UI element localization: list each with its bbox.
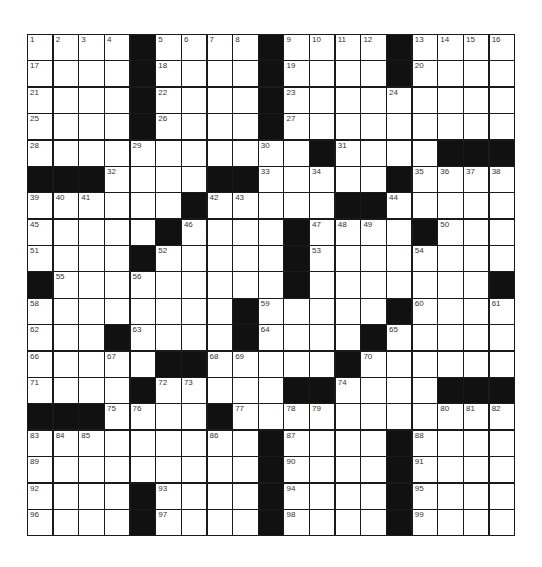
grid-cell[interactable]: 95 xyxy=(413,484,437,509)
grid-cell[interactable] xyxy=(310,484,334,509)
grid-cell[interactable] xyxy=(310,325,334,350)
grid-cell[interactable] xyxy=(54,457,78,482)
grid-cell[interactable]: 13 xyxy=(413,35,437,60)
grid-cell[interactable]: 16 xyxy=(490,35,514,60)
grid-cell[interactable] xyxy=(361,88,385,113)
grid-cell[interactable]: 91 xyxy=(413,457,437,482)
grid-cell[interactable] xyxy=(490,457,514,482)
grid-cell[interactable]: 63 xyxy=(131,325,155,350)
grid-cell[interactable]: 72 xyxy=(156,378,180,403)
grid-cell[interactable] xyxy=(182,325,206,350)
grid-cell[interactable]: 6 xyxy=(182,35,206,60)
grid-cell[interactable]: 76 xyxy=(131,404,155,429)
grid-cell[interactable] xyxy=(413,88,437,113)
grid-cell[interactable]: 85 xyxy=(79,431,103,456)
grid-cell[interactable] xyxy=(259,220,283,245)
grid-cell[interactable] xyxy=(79,325,103,350)
grid-cell[interactable] xyxy=(413,325,437,350)
grid-cell[interactable]: 62 xyxy=(28,325,52,350)
grid-cell[interactable]: 83 xyxy=(28,431,52,456)
grid-cell[interactable]: 75 xyxy=(105,404,129,429)
grid-cell[interactable] xyxy=(79,484,103,509)
grid-cell[interactable] xyxy=(284,352,308,377)
grid-cell[interactable] xyxy=(361,510,385,535)
grid-cell[interactable]: 93 xyxy=(156,484,180,509)
grid-cell[interactable]: 92 xyxy=(28,484,52,509)
grid-cell[interactable] xyxy=(54,114,78,139)
grid-cell[interactable]: 44 xyxy=(387,193,411,218)
grid-cell[interactable] xyxy=(182,457,206,482)
grid-cell[interactable] xyxy=(208,61,232,86)
grid-cell[interactable] xyxy=(54,510,78,535)
grid-cell[interactable] xyxy=(413,404,437,429)
grid-cell[interactable] xyxy=(182,510,206,535)
grid-cell[interactable] xyxy=(336,246,360,271)
grid-cell[interactable] xyxy=(336,404,360,429)
grid-cell[interactable] xyxy=(259,404,283,429)
grid-cell[interactable]: 49 xyxy=(361,220,385,245)
grid-cell[interactable]: 98 xyxy=(284,510,308,535)
grid-cell[interactable] xyxy=(131,167,155,192)
grid-cell[interactable] xyxy=(464,352,488,377)
grid-cell[interactable] xyxy=(259,246,283,271)
grid-cell[interactable]: 78 xyxy=(284,404,308,429)
grid-cell[interactable] xyxy=(438,193,462,218)
grid-cell[interactable]: 90 xyxy=(284,457,308,482)
grid-cell[interactable] xyxy=(413,193,437,218)
grid-cell[interactable] xyxy=(54,88,78,113)
grid-cell[interactable] xyxy=(336,167,360,192)
grid-cell[interactable] xyxy=(490,114,514,139)
grid-cell[interactable] xyxy=(208,88,232,113)
grid-cell[interactable] xyxy=(464,484,488,509)
grid-cell[interactable] xyxy=(361,61,385,86)
grid-cell[interactable] xyxy=(336,299,360,324)
grid-cell[interactable] xyxy=(438,352,462,377)
grid-cell[interactable]: 9 xyxy=(284,35,308,60)
grid-cell[interactable] xyxy=(336,484,360,509)
grid-cell[interactable] xyxy=(105,141,129,166)
grid-cell[interactable]: 88 xyxy=(413,431,437,456)
grid-cell[interactable]: 1 xyxy=(28,35,52,60)
grid-cell[interactable] xyxy=(156,141,180,166)
grid-cell[interactable] xyxy=(208,114,232,139)
grid-cell[interactable] xyxy=(182,167,206,192)
grid-cell[interactable] xyxy=(464,299,488,324)
grid-cell[interactable] xyxy=(464,88,488,113)
grid-cell[interactable] xyxy=(490,193,514,218)
grid-cell[interactable] xyxy=(208,457,232,482)
grid-cell[interactable] xyxy=(79,220,103,245)
grid-cell[interactable] xyxy=(387,378,411,403)
grid-cell[interactable] xyxy=(464,325,488,350)
grid-cell[interactable]: 86 xyxy=(208,431,232,456)
grid-cell[interactable] xyxy=(233,114,257,139)
grid-cell[interactable] xyxy=(208,272,232,297)
grid-cell[interactable] xyxy=(387,246,411,271)
grid-cell[interactable]: 19 xyxy=(284,61,308,86)
grid-cell[interactable] xyxy=(438,299,462,324)
grid-cell[interactable]: 81 xyxy=(464,404,488,429)
grid-cell[interactable] xyxy=(490,431,514,456)
grid-cell[interactable] xyxy=(413,352,437,377)
grid-cell[interactable] xyxy=(361,378,385,403)
grid-cell[interactable]: 42 xyxy=(208,193,232,218)
grid-cell[interactable] xyxy=(438,484,462,509)
grid-cell[interactable] xyxy=(259,272,283,297)
grid-cell[interactable] xyxy=(105,88,129,113)
grid-cell[interactable]: 89 xyxy=(28,457,52,482)
grid-cell[interactable]: 24 xyxy=(387,88,411,113)
grid-cell[interactable] xyxy=(464,272,488,297)
grid-cell[interactable]: 15 xyxy=(464,35,488,60)
grid-cell[interactable]: 26 xyxy=(156,114,180,139)
grid-cell[interactable] xyxy=(233,141,257,166)
grid-cell[interactable] xyxy=(54,378,78,403)
grid-cell[interactable] xyxy=(54,325,78,350)
grid-cell[interactable] xyxy=(438,431,462,456)
grid-cell[interactable] xyxy=(105,246,129,271)
grid-cell[interactable]: 96 xyxy=(28,510,52,535)
grid-cell[interactable]: 54 xyxy=(413,246,437,271)
grid-cell[interactable] xyxy=(464,246,488,271)
grid-cell[interactable] xyxy=(105,114,129,139)
grid-cell[interactable]: 25 xyxy=(28,114,52,139)
grid-cell[interactable] xyxy=(79,352,103,377)
grid-cell[interactable] xyxy=(413,272,437,297)
